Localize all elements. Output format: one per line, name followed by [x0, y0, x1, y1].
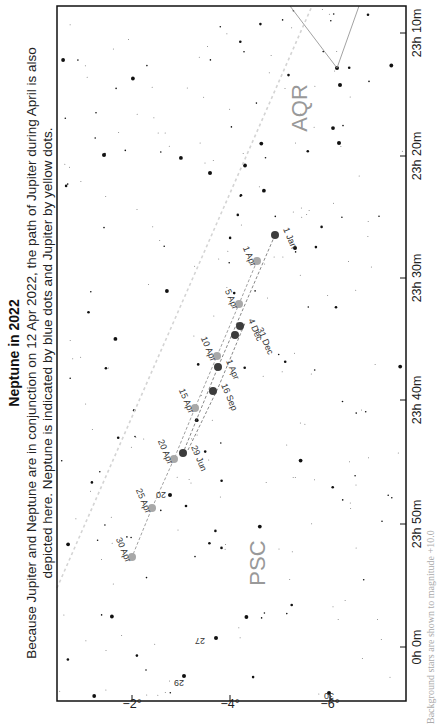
label-jupiter-15-apr: 15 Apr [177, 387, 196, 415]
dec-tick-minus2: −2° [122, 697, 141, 711]
ra-tick-0h0m: 0h 0m [410, 630, 424, 665]
star-chart-canvas: Neptune in 2022 Because Jupiter and Nept… [0, 0, 438, 728]
label-neptune-16-sep: 16 Sep [219, 382, 239, 412]
ra-axis: 23h 10m 23h 20m 23h 30m 23h 40m 23h 50m … [400, 9, 424, 665]
neptune-dot-1-apr [214, 363, 222, 371]
neptune-dot-1-jan [271, 231, 279, 239]
label-jupiter-20-apr: 20 Apr [156, 438, 175, 466]
label-jupiter-25-apr: 25 Apr [134, 487, 153, 515]
neptune-dot-29-jun [179, 449, 187, 457]
ra-tick-23h30m: 23h 30m [410, 254, 424, 303]
ecliptic-line [57, 6, 312, 588]
constellation-lines-aqr [290, 6, 359, 68]
caption-line-1: Because Jupiter and Neptune are in conju… [24, 47, 39, 659]
star-chart-svg: Neptune in 2022 Because Jupiter and Nept… [0, 0, 438, 728]
star-label-29: 29 [174, 678, 184, 688]
label-jupiter-5-apr: 5 Apr [223, 288, 240, 311]
background-stars [59, 9, 403, 698]
dec-tick-minus4: −4° [220, 697, 239, 711]
neptune-dot-16-sep [209, 387, 217, 395]
ra-tick-23h20m: 23h 20m [410, 132, 424, 181]
label-jupiter-10-apr: 10 Apr [199, 335, 218, 363]
label-neptune-1-apr: 1 Apr [224, 358, 241, 381]
label-jupiter-1-apr: 1 Apr [241, 245, 258, 268]
neptune-dot-31-dec [231, 331, 239, 339]
neptune-dot-4-dec [236, 322, 244, 330]
constellation-label-aqr: AQR [287, 84, 312, 132]
label-neptune-1-jan: 1 Jan [281, 226, 299, 250]
ra-tick-23h10m: 23h 10m [410, 9, 424, 58]
star-label-20: 20 [156, 490, 166, 500]
ra-tick-23h50m: 23h 50m [410, 500, 424, 549]
footnote: Background stars are shown to magnitude … [425, 530, 436, 724]
star-label-27: 27 [195, 636, 205, 646]
chart-title: Neptune in 2022 [6, 299, 22, 407]
dec-tick-minus6: −6° [320, 697, 339, 711]
ra-tick-23h40m: 23h 40m [410, 376, 424, 425]
label-jupiter-30-apr: 30 Apr [114, 536, 133, 564]
chart-frame [57, 6, 406, 701]
caption-line-2: depicted here. Neptune is indicated by b… [40, 127, 55, 578]
label-neptune-29-jun: 29 Jun [189, 444, 209, 473]
constellation-label-psc: PSC [245, 540, 270, 585]
dec-axis: −2° −4° −6° [122, 695, 339, 711]
